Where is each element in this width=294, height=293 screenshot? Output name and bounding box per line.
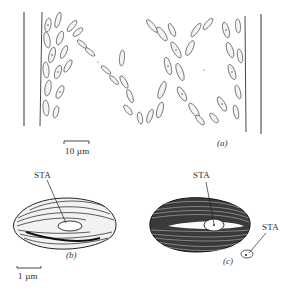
panel-b-label: (b)	[66, 250, 77, 260]
cell-suspension-drawing	[0, 0, 294, 293]
panel-a-label: (a)	[217, 138, 228, 148]
panel-c-label: (c)	[223, 256, 233, 266]
cell-b-drawing	[14, 180, 116, 249]
scale-bar-a-label: 10 µm	[65, 146, 89, 156]
scale-bar-10um	[64, 141, 89, 144]
scale-bar-1um	[17, 266, 41, 268]
sta-label-c-detached: STA	[262, 222, 279, 232]
sta-label-b: STA	[34, 170, 51, 180]
cell-c-drawing	[150, 182, 266, 258]
scale-bar-b-label: 1 µm	[18, 271, 38, 281]
sta-label-c-main: STA	[193, 170, 210, 180]
